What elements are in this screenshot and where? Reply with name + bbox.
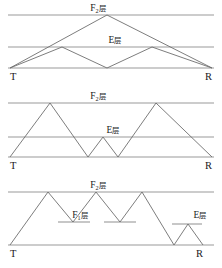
receiver-label: R [205,71,212,82]
ray-path-e-double-hop [10,47,212,68]
layer-label-e-panel-3: E层 [194,210,207,220]
panel-2-two-hop-f2-with-intermediate-e-hop: F2层E层TR [8,91,214,171]
transmitter-label: T [10,160,17,171]
receiver-label: R [196,248,203,259]
transmitter-label: T [10,248,17,259]
svg-text:E层: E层 [194,210,207,220]
ray-path-f2-f1-multi-hop-plus-e-hop [10,192,203,245]
layer-label-f2-panel-3: F2层 [90,180,105,191]
svg-text:E层: E层 [109,35,122,45]
svg-text:F2层: F2层 [90,3,105,14]
svg-text:F2层: F2层 [90,180,105,191]
layer-label-e-panel-2: E层 [107,125,120,135]
ionosphere-propagation-figure: F2层E层TRF2层E层TRF2层F1层E层TR [0,0,222,268]
panel-3-multi-hop-f2-f1-with-terminal-e-hop: F2层F1层E层TR [8,180,214,259]
svg-text:E层: E层 [107,125,120,135]
layer-label-f2-panel-2: F2层 [90,91,105,102]
layer-label-e-panel-1: E层 [109,35,122,45]
transmitter-label: T [10,71,17,82]
layer-label-f1-panel-3: F1层 [72,210,87,221]
layer-label-f2-panel-1: F2层 [90,3,105,14]
panel-1-single-hop-f2-and-two-hop-e: F2层E层TR [8,3,214,82]
receiver-label: R [205,160,212,171]
svg-text:F1层: F1层 [72,210,87,221]
svg-text:F2层: F2层 [90,91,105,102]
diagram-canvas: F2层E层TRF2层E层TRF2层F1层E层TR [0,0,222,268]
